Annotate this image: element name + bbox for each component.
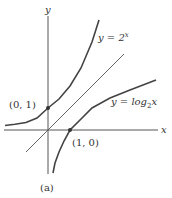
point-0-1 <box>46 106 50 110</box>
y-axis-label: y <box>45 5 51 15</box>
point-1-0 <box>68 128 72 132</box>
exponential-label: y = 2x <box>98 32 129 43</box>
logarithm-curve <box>53 80 156 173</box>
x-axis-label: x <box>161 125 167 135</box>
point-1-0-label: (1, 0) <box>72 138 99 148</box>
point-0-1-label: (0, 1) <box>9 100 36 110</box>
logarithm-label: y = log2x <box>111 97 157 110</box>
figure-caption: (a) <box>40 183 54 193</box>
